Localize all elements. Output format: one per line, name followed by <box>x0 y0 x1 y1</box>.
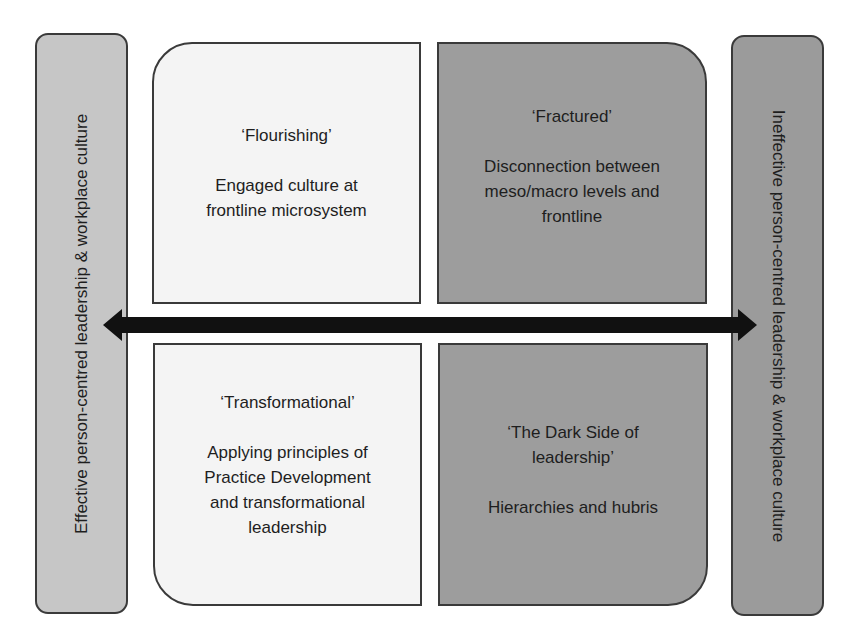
quadrant-fractured: ‘Fractured’ Disconnection between meso/m… <box>437 42 707 304</box>
quadrant-title: ‘Transformational’ <box>204 390 370 415</box>
quadrant-flourishing: ‘Flourishing’ Engaged culture at frontli… <box>152 42 421 304</box>
effective-axis-label: Effective person-centred leadership & wo… <box>72 113 92 533</box>
quadrant-body: Engaged culture at frontline microsystem <box>206 173 367 223</box>
quadrant-transformational: ‘Transformational’ Applying principles o… <box>153 343 422 606</box>
ineffective-axis-label: Ineffective person-centred leadership & … <box>768 109 788 541</box>
quadrant-body: Applying principles of Practice Developm… <box>204 440 370 540</box>
quadrant-title: ‘Flourishing’ <box>206 123 367 148</box>
quadrant-body: Hierarchies and hubris <box>488 495 658 520</box>
bidirectional-arrow-icon <box>100 307 760 343</box>
quadrant-dark-side: ‘The Dark Side of leadership’ Hierarchie… <box>438 343 708 606</box>
quadrant-title: ‘Fractured’ <box>484 104 660 129</box>
quadrant-body: Disconnection between meso/macro levels … <box>484 154 660 229</box>
quadrant-title: ‘The Dark Side of leadership’ <box>488 420 658 470</box>
